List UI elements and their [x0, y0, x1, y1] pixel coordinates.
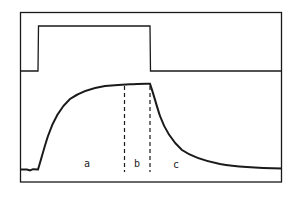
stimulus-pulse-trace	[20, 26, 282, 71]
response-curve	[20, 84, 282, 171]
waveform-diagram: a b c	[0, 0, 298, 197]
phase-label-b: b	[134, 158, 140, 169]
outer-frame	[21, 13, 282, 183]
phase-label-a: a	[84, 158, 90, 169]
phase-label-c: c	[173, 159, 179, 170]
